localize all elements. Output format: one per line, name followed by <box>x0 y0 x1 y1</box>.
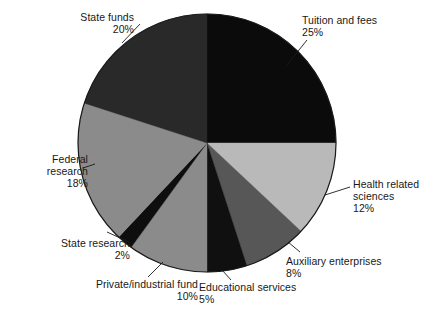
leader-line-private <box>148 262 163 277</box>
slice-label-tuition-and-fees: Tuition and fees 25% <box>302 14 377 38</box>
leader-line-educational <box>222 270 231 280</box>
slice-label-state-funds: State funds 20% <box>40 11 134 35</box>
pie-chart-figure: Tuition and fees 25% Health related scie… <box>0 0 428 318</box>
leader-line-auxiliary <box>288 242 300 252</box>
slice-label-private-industrial-fund: Private/industrial fund 10% <box>72 278 198 302</box>
leader-line-health <box>325 187 350 195</box>
slice-label-state-research: State research 2% <box>30 237 130 261</box>
slice-label-federal-research: Federal research 18% <box>12 153 88 190</box>
slice-label-health-related-sciences: Health related sciences 12% <box>353 178 419 215</box>
slice-label-educational-services: Educational services 5% <box>199 281 296 305</box>
slice-label-auxiliary-enterprises: Auxiliary enterprises 8% <box>286 255 382 279</box>
